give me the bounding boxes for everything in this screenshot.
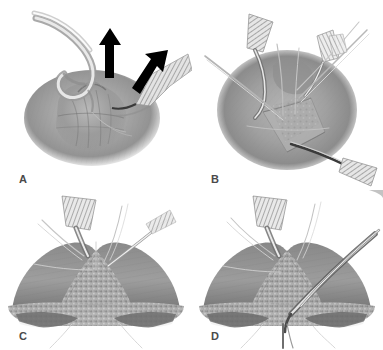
panel-label-a: A bbox=[19, 174, 27, 185]
panel-d-illustration bbox=[191, 190, 383, 350]
traction-arrow-up bbox=[99, 28, 121, 78]
panel-label-c: C bbox=[19, 331, 27, 342]
surgical-figure: A B C D bbox=[0, 0, 383, 350]
panel-d bbox=[191, 190, 383, 350]
panel-label-b: B bbox=[211, 174, 219, 185]
panel-c-illustration bbox=[0, 190, 192, 350]
panel-c bbox=[0, 190, 192, 350]
panel-b bbox=[191, 0, 383, 190]
panel-b-illustration bbox=[191, 0, 383, 190]
panel-label-d: D bbox=[211, 331, 219, 342]
panel-a bbox=[0, 0, 192, 190]
panel-a-illustration bbox=[0, 0, 192, 190]
